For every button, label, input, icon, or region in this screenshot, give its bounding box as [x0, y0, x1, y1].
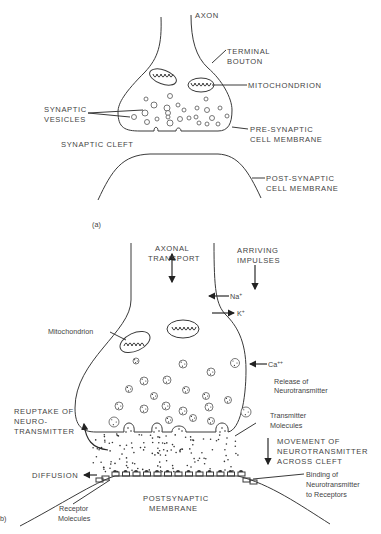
label-movement-3: ACROSS CLEFT: [277, 457, 342, 466]
label-receptor-1: Receptor: [59, 504, 89, 513]
synaptic-vesicle: [168, 94, 173, 99]
leader-vesicles-1: [88, 110, 143, 113]
label-transmitter-2: Molecules: [270, 421, 303, 430]
vesicle-molecule: [142, 379, 143, 380]
panel-a: AXON TERMINAL BOUTON MITOCHONDRION SYNAP…: [44, 11, 339, 229]
receptor-molecules-row: [96, 470, 257, 484]
terminal-bouton-outline-b: [75, 243, 246, 432]
transmitter-molecule: [154, 454, 156, 456]
neurotransmitter-vesicle: [162, 402, 170, 410]
label-postsynaptic-b-2: MEMBRANE: [149, 504, 198, 513]
vesicle-molecule: [181, 409, 182, 410]
transmitter-molecule: [224, 469, 226, 471]
transmitter-molecule: [109, 467, 111, 469]
transmitter-molecule: [127, 467, 129, 469]
vesicle-molecule: [170, 419, 171, 420]
transmitter-molecule: [163, 449, 165, 451]
transmitter-molecule: [110, 463, 112, 465]
transmitter-molecule: [95, 439, 97, 441]
transmitter-molecule: [138, 434, 140, 436]
transmitter-molecule: [114, 463, 116, 465]
panel-a-label: (a): [92, 220, 101, 229]
transmitter-molecule: [159, 461, 161, 463]
transmitter-molecule: [219, 434, 221, 436]
vesicle-molecule: [204, 394, 205, 395]
vesicle-molecule: [210, 406, 211, 407]
mitochondrion-a2: [188, 78, 214, 92]
transmitter-molecule: [181, 448, 183, 450]
transmitter-molecule: [189, 448, 191, 450]
transmitter-molecule: [224, 449, 226, 451]
transmitter-molecule: [132, 462, 134, 464]
transmitter-molecule: [152, 453, 154, 455]
label-mitochondrion-b: Mitochondrion: [48, 327, 93, 336]
label-postsynaptic-2: CELL MEMBRANE: [266, 184, 339, 193]
transmitter-molecule: [133, 452, 135, 454]
synaptic-vesicle: [210, 116, 215, 121]
vesicle-molecule: [191, 416, 192, 417]
vesicle-molecule: [181, 362, 182, 363]
transmitter-molecule: [96, 456, 98, 458]
transmitter-molecule: [164, 443, 166, 445]
transmitter-molecule: [187, 465, 189, 467]
synaptic-vesicle: [144, 97, 148, 101]
synaptic-vesicle: [145, 120, 150, 125]
synaptic-vesicle: [164, 105, 170, 111]
transmitter-molecule: [205, 458, 207, 460]
transmitter-molecule: [157, 465, 159, 467]
transmitter-molecules: [92, 427, 238, 472]
synaptic-vesicle: [182, 108, 186, 112]
transmitter-molecule: [121, 453, 123, 455]
vesicle-molecule: [113, 424, 114, 425]
vesicle-molecule: [142, 407, 143, 408]
transmitter-molecule: [181, 430, 183, 432]
neurotransmitter-vesicle: [115, 402, 123, 410]
bound-neurotransmitter: [134, 470, 138, 472]
neurotransmitter-vesicle: [208, 418, 215, 425]
vesicle-molecule: [226, 398, 227, 399]
vesicle-molecule: [210, 374, 211, 375]
transmitter-molecule: [104, 439, 106, 441]
neurotransmitter-vesicle: [109, 417, 119, 427]
bound-neurotransmitter: [208, 470, 212, 472]
filled-vesicles-b: [109, 358, 251, 427]
transmitter-molecule: [204, 463, 206, 465]
label-binding-2: Neurotransmitter: [306, 480, 360, 489]
label-movement-2: NEUROTRANSMITTER: [277, 447, 368, 456]
vesicle-molecule: [184, 388, 185, 389]
transmitter-molecule: [227, 459, 229, 461]
transmitter-molecule: [152, 442, 154, 444]
label-binding-3: to Receptors: [306, 490, 347, 499]
transmitter-molecule: [225, 455, 227, 457]
receptor: [186, 472, 193, 476]
bound-neurotransmitter: [176, 470, 180, 472]
vesicle-molecule: [153, 397, 154, 398]
transmitter-molecule: [224, 461, 226, 463]
neurotransmitter-vesicle: [241, 407, 251, 417]
vesicle-molecule: [182, 413, 183, 414]
vesicle-molecule: [194, 417, 195, 418]
transmitter-molecule: [179, 451, 181, 453]
vesicle-molecule: [248, 411, 249, 412]
transmitter-molecule: [159, 450, 161, 452]
panel-b-label: b): [0, 514, 6, 523]
transmitter-molecule: [130, 430, 132, 432]
receptor: [144, 472, 151, 476]
synaptic-vesicle: [166, 115, 170, 119]
leader-transmitter: [235, 423, 256, 436]
label-synaptic-vesicles-1: SYNAPTIC: [44, 105, 87, 114]
neurotransmitter-vesicle: [179, 360, 187, 368]
label-postsynaptic-1: POST-SYNAPTIC: [266, 174, 335, 183]
transmitter-molecule: [167, 450, 169, 452]
vesicle-molecule: [152, 394, 153, 395]
transmitter-molecule: [98, 449, 100, 451]
panel-b: AXONAL TRANSPORT ARRIVING IMPULSES Na+ K…: [0, 243, 368, 526]
transmitter-molecule: [131, 447, 133, 449]
synaptic-vesicle: [218, 106, 222, 110]
transmitter-molecule: [235, 446, 237, 448]
transmitter-molecule: [125, 431, 127, 433]
vesicle-molecule: [236, 362, 237, 363]
transmitter-molecule: [126, 444, 128, 446]
leader-vesicles-2: [88, 113, 130, 117]
transmitter-molecule: [235, 453, 237, 455]
